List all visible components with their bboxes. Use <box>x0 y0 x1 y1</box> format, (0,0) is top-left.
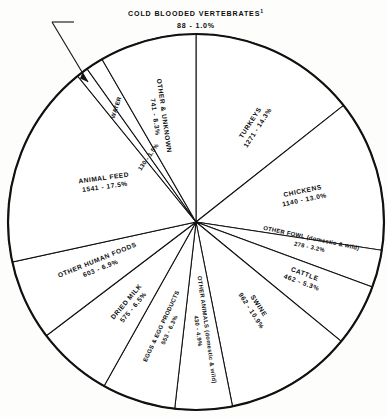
cold-blooded-vertebrates-label: COLD BLOODED VERTEBRATES1 <box>128 8 264 18</box>
cold-blooded-callout-leader <box>52 22 88 82</box>
cold-blooded-name: COLD BLOODED VERTEBRATES <box>128 10 260 18</box>
pie-chart-svg: COLD BLOODED VERTEBRATES1 88 - 1.0% WATE… <box>0 0 387 417</box>
cold-blooded-value: 88 - 1.0% <box>177 22 215 30</box>
cold-blooded-superscript: 1 <box>260 8 264 14</box>
pie-slices-group <box>8 34 384 410</box>
pie-chart-figure: COLD BLOODED VERTEBRATES1 88 - 1.0% WATE… <box>0 0 387 417</box>
